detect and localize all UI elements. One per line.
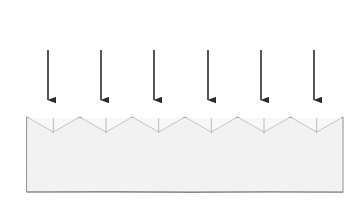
diagram-root (0, 0, 361, 213)
sawtooth-diagram-svg (0, 0, 361, 213)
block-group (27, 117, 343, 192)
block-inner-shade (28, 118, 342, 191)
